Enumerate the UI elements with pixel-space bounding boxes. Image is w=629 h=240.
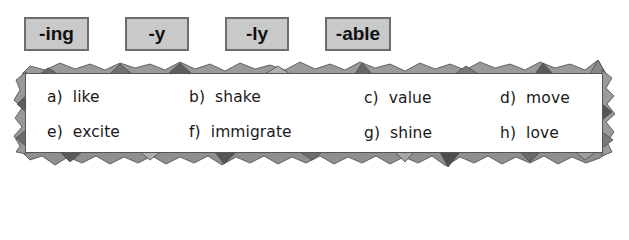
item-word: value — [389, 89, 432, 107]
word-item-d: d)move — [500, 89, 570, 107]
item-word: shake — [215, 88, 261, 106]
word-item-a: a)like — [47, 88, 100, 106]
item-letter: a) — [47, 88, 63, 106]
item-letter: g) — [364, 124, 380, 142]
item-word: like — [73, 88, 100, 106]
word-item-g: g)shine — [364, 124, 432, 142]
item-letter: b) — [189, 88, 205, 106]
item-word: shine — [390, 124, 432, 142]
item-letter: f) — [189, 123, 201, 141]
item-letter: d) — [500, 89, 516, 107]
item-word: love — [526, 124, 559, 142]
item-letter: c) — [364, 89, 379, 107]
word-item-f: f)immigrate — [189, 123, 292, 141]
item-word: immigrate — [211, 123, 292, 141]
item-word: move — [526, 89, 570, 107]
item-letter: h) — [500, 124, 516, 142]
word-item-h: h)love — [500, 124, 559, 142]
word-item-c: c)value — [364, 89, 432, 107]
word-item-b: b)shake — [189, 88, 261, 106]
word-item-e: e)excite — [47, 123, 120, 141]
item-word: excite — [73, 123, 120, 141]
item-letter: e) — [47, 123, 63, 141]
